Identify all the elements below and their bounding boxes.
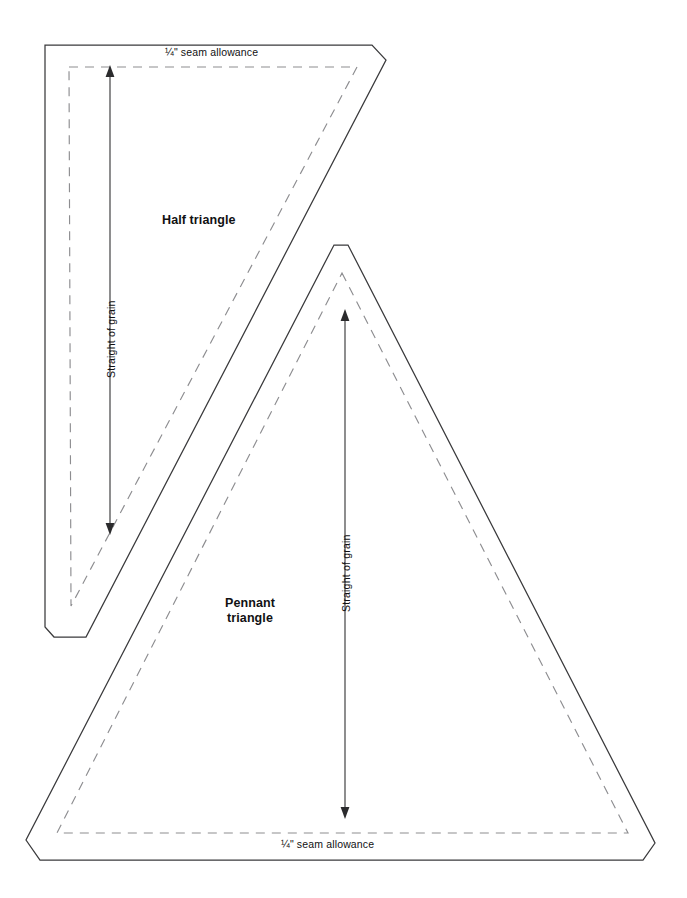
pennant-triangle-seam-allowance-label: ¼" seam allowance <box>281 838 374 850</box>
pattern-sheet: ¼" seam allowance Half triangle Straight… <box>0 0 687 898</box>
pattern-drawing <box>0 0 687 898</box>
pennant-triangle-name-line-2: triangle <box>225 611 275 626</box>
pennant-triangle-name-label: Pennant triangle <box>225 596 275 626</box>
pennant-triangle-grain-label: Straight of grain <box>340 534 352 612</box>
half-triangle-name-label: Half triangle <box>162 213 236 228</box>
pennant-triangle-name-line-1: Pennant <box>225 596 275 611</box>
half-triangle-seam-allowance-label: ¼" seam allowance <box>165 46 258 58</box>
half-triangle-grain-label: Straight of grain <box>105 300 117 378</box>
